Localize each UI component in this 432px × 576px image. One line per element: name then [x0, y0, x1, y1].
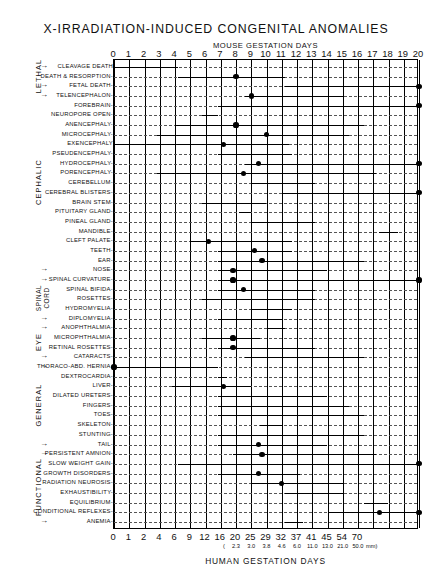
gridline-day-2	[145, 60, 146, 528]
top-tick-label: 0	[110, 48, 115, 59]
row-label: SPINAL CURVATURE-	[49, 276, 113, 282]
gridline-day-4	[175, 60, 176, 528]
range-bar	[114, 67, 178, 68]
gridline-day-17	[373, 60, 374, 528]
range-bar	[175, 125, 364, 126]
range-bar	[114, 367, 218, 368]
bottom-axis-title: HUMAN GESTATION DAYS	[113, 556, 418, 566]
row-label: MICROCEPHALY-	[62, 131, 113, 137]
top-tick-label: 6	[202, 48, 207, 59]
gridline-day-10	[267, 60, 268, 528]
row-label: HYDROMYELIA-	[65, 305, 113, 311]
bottom-tick-label: 45	[321, 531, 331, 542]
range-bar	[202, 115, 217, 116]
row-baseline	[114, 386, 417, 387]
peak-dot	[221, 142, 226, 147]
peak-dot	[252, 248, 257, 253]
row-label: GROWTH DISORDERS-	[43, 470, 113, 476]
range-bar	[267, 328, 285, 329]
row-label: ANEMIA-	[87, 518, 113, 524]
range-bar	[202, 299, 315, 300]
row-baseline	[114, 377, 417, 378]
peak-dot	[221, 384, 226, 389]
group-boundary-arrow: →	[40, 352, 48, 360]
group-boundary-arrow: →	[40, 362, 48, 370]
row-label: MICROPHTHALMIA-	[54, 334, 113, 340]
bottom-tick-label: 54	[337, 531, 347, 542]
row-label: NOSE-	[93, 266, 113, 272]
range-bar	[178, 77, 285, 78]
row-label: FETAL DEATH-	[69, 82, 113, 88]
top-tick-label: 12	[291, 48, 301, 59]
mm-tick-label: 13.0	[322, 543, 333, 549]
chart-page: X-IRRADIATION-INDUCED CONGENITAL ANOMALI…	[0, 0, 432, 576]
group-boundary-arrow: →	[40, 449, 48, 457]
gridline-day-3	[160, 60, 161, 528]
range-bar	[157, 173, 377, 174]
row-baseline	[114, 328, 417, 329]
row-label: DEXTROCARDIA-	[61, 373, 113, 379]
peak-dot	[233, 74, 238, 79]
range-bar	[364, 503, 388, 504]
peak-dot	[259, 452, 264, 457]
row-label: ROSETTES-	[77, 295, 113, 301]
range-bar	[218, 106, 419, 107]
mm-tick-label: 3.8	[263, 543, 271, 549]
row-label: RETINAL ROSETTES-	[49, 344, 113, 350]
peak-dot	[230, 345, 235, 350]
bottom-tick-label: 41	[306, 531, 316, 542]
range-bar	[157, 135, 349, 136]
range-bar	[251, 222, 315, 223]
range-bar	[218, 261, 364, 262]
row-label: PERSISTENT AMNION-	[45, 450, 113, 456]
top-tick-label: 11	[276, 48, 286, 59]
row-label: DIPLOMYELIA-	[69, 315, 113, 321]
gridline-day-15	[343, 60, 344, 528]
row-label: STUNTING-	[79, 431, 113, 437]
range-bar	[218, 377, 227, 378]
bottom-tick-label: 16	[215, 531, 225, 542]
row-label: DEATH & RESORPTION-	[41, 73, 113, 79]
range-bar	[245, 357, 364, 358]
range-bar	[218, 319, 282, 320]
gridline-day-1	[129, 60, 130, 528]
row-label: CLEAVAGE DEATH	[57, 63, 113, 69]
row-label: PORENCEPHALY-	[60, 169, 113, 175]
row-label: FINGERS-	[83, 402, 113, 408]
top-tick-label: 3	[156, 48, 161, 59]
group-boundary-arrow: →	[40, 517, 48, 525]
row-label: RADIATION NEUROSIS-	[42, 479, 113, 485]
range-bar	[233, 454, 376, 455]
open-end-dot	[416, 84, 421, 89]
gridline-day-5	[190, 60, 191, 528]
group-label-eye: EYE	[34, 333, 43, 351]
row-label: EXENCEPHALY	[67, 140, 113, 146]
range-bar	[218, 415, 364, 416]
open-end-dot	[416, 161, 421, 166]
top-tick-label: 18	[382, 48, 392, 59]
gridline-day-13	[312, 60, 313, 528]
group-label-functional: FUNCTIONAL	[34, 458, 43, 516]
row-label: NEUROPORE OPEN-	[51, 111, 113, 117]
group-boundary-arrow: →	[40, 91, 48, 99]
group-boundary-arrow: →	[40, 81, 48, 89]
range-bar	[114, 144, 289, 145]
range-bar	[379, 232, 397, 233]
row-label: ANENCEPHALY-	[65, 121, 113, 127]
row-label: SPINAL BIFIDA-	[66, 286, 113, 292]
row-label: CATARACTS-	[74, 353, 113, 359]
open-end-dot	[416, 510, 421, 515]
row-label: TOES-	[94, 411, 113, 417]
range-bar	[218, 154, 293, 155]
open-end-dot	[416, 461, 421, 466]
mm-sublabels: (2.33.03.84.66.011.013.021.050.0mm)	[0, 543, 432, 552]
top-tick-label: 14	[321, 48, 331, 59]
range-bar	[172, 386, 251, 387]
gridline-day-6	[206, 60, 207, 528]
mm-close-paren: mm)	[366, 543, 377, 549]
range-bar	[218, 435, 364, 436]
peak-dot	[206, 239, 211, 244]
peak-dot	[241, 171, 246, 176]
row-label: ANOPHTHALMIA-	[61, 324, 113, 330]
row-label: TAIL-	[98, 441, 113, 447]
